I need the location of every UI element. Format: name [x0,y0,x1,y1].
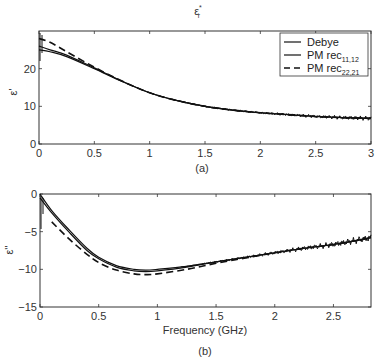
x-tick-label: 1 [147,147,153,159]
chart-panel-b: 00.511.522.5 0−5−10−15 ε'' Frequency (GH… [3,188,371,357]
y-tick-label: 0 [31,188,37,200]
x-tick-label: 1 [154,310,160,322]
chart-panel-a: 00.511.522.53 01020 ε' (a) Debye PM rec1… [7,31,374,174]
legend: Debye PM rec11,12 PM rec22,21 [280,33,368,76]
figure: ε*r 00.511.522.53 01020 ε' (a) Debye PM … [0,0,383,362]
figure-title: ε*r [194,4,202,19]
y-axis-label-b: ε'' [3,245,15,254]
x-tick-label: 0 [36,147,42,159]
x-tick-label: 2 [257,147,263,159]
y-tick-label: 10 [24,100,36,112]
legend-label-debye: Debye [307,36,339,48]
series-line-debye [40,194,371,270]
y-tick-label: 0 [30,138,36,150]
y-tick-label: −5 [24,226,37,238]
x-tick-label: 1.5 [197,147,212,159]
x-tick-label: 1.5 [208,310,223,322]
y-tick-label: 20 [24,63,36,75]
x-axis-label-b: Frequency (GHz) [163,324,247,336]
x-tick-label: 0.5 [91,310,106,322]
series-b [40,194,371,275]
y-tick-label: −10 [18,263,37,275]
x-tick-label: 0.5 [87,147,102,159]
x-axis-ticks-b: 00.511.522.5 [37,194,341,322]
panel-label-a: (a) [195,162,208,174]
measurement-noise [181,235,371,267]
panel-label-b: (b) [198,345,211,357]
y-axis-ticks-b: 0−5−10−15 [18,188,371,313]
y-tick-label: −15 [18,301,37,313]
y-axis-label-a: ε' [7,88,19,95]
x-tick-label: 2.5 [326,310,341,322]
x-tick-label: 2 [272,310,278,322]
x-tick-label: 0 [37,310,43,322]
x-tick-label: 2.5 [308,147,323,159]
series-line-pm-rec11-12 [40,198,371,272]
x-tick-label: 3 [368,147,374,159]
measurement-noise [172,99,371,120]
